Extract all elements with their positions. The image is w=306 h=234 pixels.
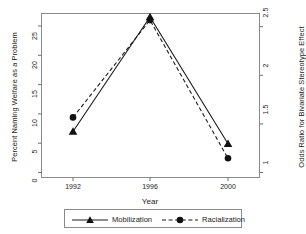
- y-axis-right-tick-2-5: 2.5: [262, 0, 269, 24]
- legend-item-racialization: Racialization: [162, 210, 245, 229]
- y-axis-right-tick-2: 2: [262, 56, 269, 74]
- y-axis-left-ticks: [38, 26, 42, 173]
- legend-label-mobilization: Mobilization: [112, 215, 152, 224]
- legend-label-racialization: Racialization: [202, 215, 245, 224]
- legend-key-mobilization: [72, 215, 108, 225]
- x-axis-ticks: [73, 178, 228, 182]
- y-axis-left-tick-20: 20: [31, 54, 38, 75]
- legend-key-racialization: [162, 215, 198, 225]
- y-axis-right-tick-1-5: 1.5: [262, 98, 269, 122]
- panel-border: [42, 14, 260, 178]
- y-axis-left-title: Percent Naming Welfare as a Problem: [10, 12, 22, 182]
- x-axis-tick-1992: 1992: [59, 183, 87, 190]
- y-axis-left-tick-15: 15: [31, 84, 38, 105]
- x-axis-tick-1996: 1996: [136, 183, 164, 190]
- y-axis-right-tick-1: 1: [262, 154, 269, 172]
- y-axis-left-tick-0: 0: [31, 172, 38, 190]
- chart-legend: Mobilization Racialization: [64, 209, 242, 228]
- x-axis-title: Year: [38, 197, 262, 206]
- chart-figure: Percent Naming Welfare as a Problem Odds…: [0, 0, 306, 234]
- y-axis-left-tick-5: 5: [31, 142, 38, 160]
- x-axis-tick-2000: 2000: [214, 183, 242, 190]
- legend-item-mobilization: Mobilization: [72, 210, 152, 229]
- legend-circle-icon: [177, 216, 184, 223]
- y-axis-left-tick-25: 25: [31, 25, 38, 46]
- y-axis-right-title: Odds Ratio for Bivariate Stereotype Effe…: [297, 9, 306, 185]
- y-axis-left-tick-10: 10: [31, 113, 38, 134]
